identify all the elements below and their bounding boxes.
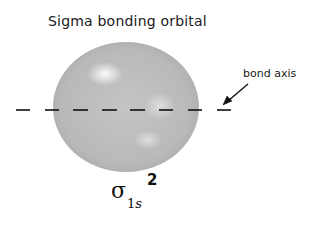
highlight	[144, 92, 176, 120]
sphere-orbital	[53, 42, 199, 172]
sigma-symbol: σ	[111, 178, 126, 203]
arrow-icon	[223, 84, 248, 105]
orbital-notation: σ 1s 2	[111, 178, 171, 218]
superscript: 2	[147, 171, 157, 189]
highlight	[134, 130, 162, 150]
highlight	[87, 62, 123, 86]
bond-axis-label: bond axis	[243, 67, 296, 80]
subscript: 1s	[127, 196, 142, 211]
